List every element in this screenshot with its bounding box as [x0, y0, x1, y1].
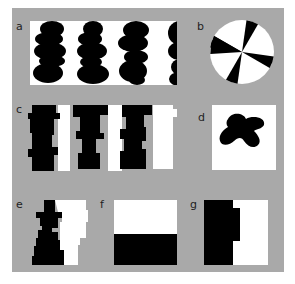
panel-g-step	[233, 208, 240, 241]
blob-graphic	[212, 105, 276, 170]
blob-columns-graphic	[30, 21, 177, 85]
panel-d	[212, 105, 276, 170]
panel-g	[204, 200, 268, 265]
jagged-stripes-graphic	[28, 105, 180, 171]
panel-f-black-half	[114, 234, 177, 265]
panel-e	[30, 200, 88, 265]
panel-a-label: a	[16, 21, 23, 32]
silhouette-graphic	[30, 200, 88, 265]
panel-g-black-half	[204, 200, 233, 265]
panel-c	[28, 105, 180, 171]
panel-b-label: b	[197, 21, 204, 32]
panel-d-label: d	[198, 112, 205, 123]
panel-a	[30, 21, 177, 85]
panel-g-label: g	[190, 199, 197, 210]
panel-b	[209, 19, 275, 85]
pinwheel-graphic	[209, 19, 275, 85]
panel-e-label: e	[16, 199, 23, 210]
panel-f	[114, 200, 177, 265]
panel-c-label: c	[16, 104, 22, 115]
panel-f-label: f	[100, 199, 104, 210]
